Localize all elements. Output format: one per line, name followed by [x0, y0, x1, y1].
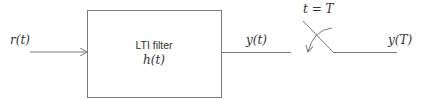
- switch-label: t = T: [303, 2, 335, 16]
- input-label: r(t): [10, 33, 30, 47]
- sampled-output-label: y(T): [387, 33, 412, 47]
- block-title: LTI filter: [135, 39, 173, 51]
- block-impulse-response: h(t): [143, 53, 165, 67]
- switch-blade: [303, 21, 334, 53]
- block-diagram: r(t) LTI filter h(t) y(t) t = T y(T): [0, 0, 421, 100]
- output-label: y(t): [245, 33, 267, 47]
- switch-closing-arrow: [308, 28, 332, 52]
